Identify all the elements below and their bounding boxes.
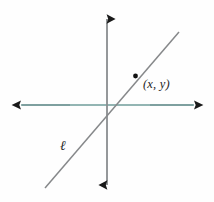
point-marker-dot (133, 74, 138, 79)
coordinate-plane-figure: (x, y) ℓ (0, 0, 214, 202)
point-coordinate-label: (x, y) (143, 78, 170, 91)
line-name-label: ℓ (60, 139, 66, 153)
figure-canvas (0, 0, 214, 202)
line-ell (45, 32, 179, 188)
